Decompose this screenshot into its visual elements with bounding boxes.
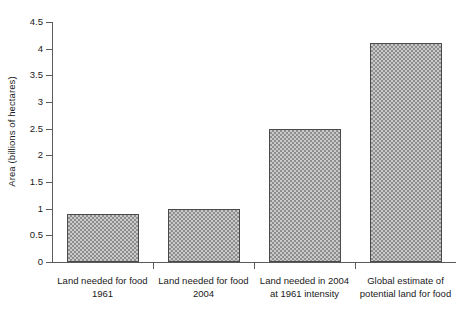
- y-axis-tick: [46, 75, 52, 76]
- y-axis-tick-label: 4: [2, 44, 43, 54]
- x-axis-tick: [254, 263, 255, 269]
- category-label-line-2: potential land for food: [355, 287, 456, 300]
- y-axis-tick-label: 3: [2, 97, 43, 107]
- y-axis-tick-label: 3.5: [2, 70, 43, 80]
- y-axis-tick: [46, 262, 52, 263]
- y-axis-tick-label: 2.5: [2, 124, 43, 134]
- category-label-line-1: Land needed for food: [158, 275, 248, 286]
- x-axis-category-label: Land needed for food1961: [52, 274, 153, 300]
- category-label-line-1: Global estimate of: [367, 275, 444, 286]
- y-axis-tick-label: 4.5: [2, 17, 43, 27]
- y-axis-tick: [46, 235, 52, 236]
- y-axis-line: [52, 22, 53, 263]
- y-axis-tick: [46, 22, 52, 23]
- category-label-line-1: Land needed for food: [57, 275, 147, 286]
- y-axis-tick-label: 2: [2, 150, 43, 160]
- y-axis-tick: [46, 49, 52, 50]
- bar: [67, 214, 139, 262]
- bar: [168, 209, 240, 262]
- category-label-line-2: 1961: [52, 287, 153, 300]
- y-axis-tick: [46, 209, 52, 210]
- category-label-line-2: 2004: [153, 287, 254, 300]
- bar: [370, 43, 442, 262]
- category-label-line-2: at 1961 intensity: [254, 287, 355, 300]
- y-axis-tick: [46, 129, 52, 130]
- y-axis-tick: [46, 182, 52, 183]
- x-axis-category-label: Land needed in 2004at 1961 intensity: [254, 274, 355, 300]
- bar-chart: Area (billions of hectares) 00.511.522.5…: [0, 0, 470, 315]
- x-axis-category-label: Land needed for food2004: [153, 274, 254, 300]
- x-axis-tick: [355, 263, 356, 269]
- category-label-line-1: Land needed in 2004: [260, 275, 349, 286]
- bar: [269, 129, 341, 262]
- y-axis-tick-label: 0: [2, 257, 43, 267]
- y-axis-tick: [46, 155, 52, 156]
- x-axis-category-label: Global estimate ofpotential land for foo…: [355, 274, 456, 300]
- y-axis-tick: [46, 102, 52, 103]
- x-axis-tick: [153, 263, 154, 269]
- y-axis-tick-label: 1: [2, 204, 43, 214]
- y-axis-tick-label: 1.5: [2, 177, 43, 187]
- y-axis-tick-label: 0.5: [2, 230, 43, 240]
